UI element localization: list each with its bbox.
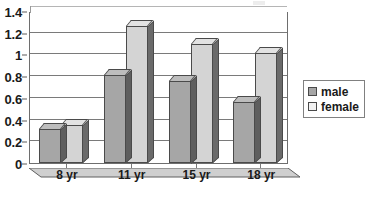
- bar-group-18-yr: [233, 13, 277, 163]
- bar-side-face: [213, 38, 219, 163]
- bar-front-face: [39, 129, 61, 163]
- y-tick-mark: [22, 33, 27, 34]
- plot-back-wall: [29, 12, 288, 164]
- bar-side-face: [255, 97, 261, 163]
- y-tick-label: 0.4: [5, 113, 22, 128]
- bar-side-face: [126, 70, 132, 163]
- bar-front-face: [233, 102, 255, 163]
- legend-label: male: [321, 86, 348, 98]
- legend-label: female: [321, 101, 359, 113]
- bar-front-face: [104, 75, 126, 163]
- y-tick-mark: [22, 142, 27, 143]
- y-tick-label: 0.8: [5, 70, 22, 85]
- y-tick-mark: [22, 164, 27, 165]
- y-tick-mark: [22, 77, 27, 78]
- bar-group-15-yr: [169, 13, 213, 163]
- bar-male-18-yr: [233, 102, 255, 163]
- plot-area: [29, 12, 288, 164]
- bar-male-15-yr: [169, 81, 191, 164]
- plot-top-face: [30, 6, 287, 13]
- bar-top-face: [169, 75, 196, 81]
- y-tick-label: 1.2: [5, 26, 22, 41]
- bar-side-face: [191, 75, 197, 163]
- y-axis: 00.20.40.60.811.21.4: [0, 12, 27, 164]
- bar-side-face: [277, 48, 283, 163]
- legend-swatch-female: [308, 102, 317, 111]
- legend: malefemale: [303, 80, 365, 118]
- bar-front-face: [169, 81, 191, 164]
- y-tick-label: 0: [15, 157, 22, 172]
- bar-side-face: [61, 124, 67, 163]
- y-tick-mark: [22, 55, 27, 56]
- y-tick-mark: [22, 98, 27, 99]
- legend-swatch-male: [308, 87, 317, 96]
- bar-group-8-yr: [39, 13, 83, 163]
- bar-top-face: [191, 38, 218, 44]
- legend-item-female[interactable]: female: [308, 99, 359, 114]
- y-tick-label: 0.2: [5, 135, 22, 150]
- bar-male-11-yr: [104, 75, 126, 163]
- y-tick-label: 1.4: [5, 5, 22, 20]
- scan-artifact: [253, 1, 265, 5]
- legend-item-male[interactable]: male: [308, 84, 359, 99]
- y-tick-mark: [22, 120, 27, 121]
- y-tick-label: 1: [15, 48, 22, 63]
- x-tick-label: 11 yr: [118, 168, 145, 182]
- bar-group-11-yr: [104, 13, 148, 163]
- y-tick-mark: [22, 12, 27, 13]
- bars-layer: [30, 13, 287, 163]
- y-tick-label: 0.6: [5, 91, 22, 106]
- bar-chart: 00.20.40.60.811.21.4 8 yr11 yr15 yr18 yr…: [0, 0, 371, 198]
- x-tick-label: 8 yr: [56, 168, 77, 182]
- x-axis: 8 yr11 yr15 yr18 yr: [29, 168, 297, 188]
- bar-side-face: [83, 120, 89, 163]
- bar-side-face: [148, 21, 154, 163]
- x-tick-label: 18 yr: [247, 168, 275, 182]
- x-tick-label: 15 yr: [182, 168, 210, 182]
- bar-male-8-yr: [39, 129, 61, 163]
